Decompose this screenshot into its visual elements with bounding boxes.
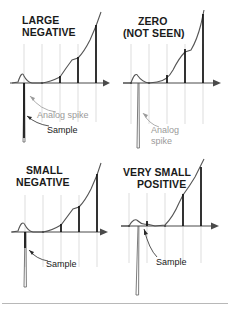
panel-title-line1: LARGE [22,14,59,26]
gridlines-group [129,193,201,263]
panel-very-small-positive: VERY SMALL POSITIVE Sample [115,155,230,305]
analog-spike [136,226,139,295]
annotation-analog-spike: Analog spike [37,110,89,120]
sample-bar [148,82,150,84]
sampling-diagram-figure: LARGE NEGATIVE Analog spike Sample [0,0,230,315]
panel-title-line1: SMALL [26,164,63,176]
sample-bar [41,82,43,84]
axis-arrow-icon [211,223,219,230]
annotation-sample: Sample [47,125,78,135]
annotation-analog-spike-line2: spike [151,136,172,146]
gridlines-group [131,44,203,124]
sample-bar [130,82,132,84]
sample-bar [164,225,166,227]
panel-title-line2: NEGATIVE [16,176,70,188]
panel-title-line2: NEGATIVE [22,26,76,38]
panel-title-line1: VERY SMALL [123,166,192,178]
bottom-divider [2,303,228,304]
axis-arrow-icon [213,80,221,87]
annotation-sample: Sample [156,257,187,267]
annotation-analog-spike-line1: Analog [151,125,179,135]
annotation-sample: Sample [46,259,77,269]
sample-arrowhead-icon [144,229,148,235]
axis-arrow-icon [103,80,110,87]
panel-large-negative: LARGE NEGATIVE Analog spike Sample [0,0,115,150]
analog-spike-arrowhead-icon [30,96,35,101]
panel-zero-not-seen: ZERO (NOT SEEN) Analog spike [115,0,230,150]
panel-title-line2: (NOT SEEN) [123,27,185,39]
sample-bar [42,231,44,233]
panel-title-line1: ZERO [138,15,168,27]
analog-spike [137,83,139,148]
axis-arrow-icon [100,229,108,236]
panel-small-negative: SMALL NEGATIVE Sample [0,155,115,305]
panel-title-line2: POSITIVE [137,178,186,190]
sample-bar [128,225,130,227]
